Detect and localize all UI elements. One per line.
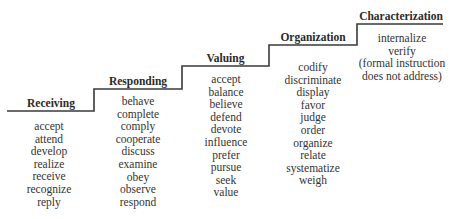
- level-title-responding: Responding: [94, 75, 182, 87]
- level-title-receiving: Receiving: [8, 97, 94, 109]
- verb-item: recognize: [8, 183, 90, 196]
- verb-item: discuss: [96, 145, 180, 158]
- verb-item: respond: [96, 196, 180, 209]
- verb-item: cooperate: [96, 133, 180, 146]
- verb-item: attend: [8, 133, 90, 146]
- level-title-valuing: Valuing: [182, 52, 269, 64]
- verb-list-characterization: internalize verify (formal instruction d…: [354, 32, 450, 82]
- verb-list-receiving: accept attend develop realize receive re…: [8, 120, 90, 208]
- verb-item: balance: [184, 86, 268, 99]
- verb-item: believe: [184, 98, 268, 111]
- verb-item: devote: [184, 123, 268, 136]
- verb-item: develop: [8, 145, 90, 158]
- verb-item: accept: [8, 120, 90, 133]
- verb-item: obey: [96, 171, 180, 184]
- affective-domain-staircase: Receiving accept attend develop realize …: [0, 0, 454, 219]
- verb-item: codify: [270, 61, 356, 74]
- verb-item: seek: [184, 174, 268, 187]
- verb-item: internalize: [354, 32, 450, 45]
- verb-item: comply: [96, 120, 180, 133]
- verb-item: discriminate: [270, 74, 356, 87]
- verb-item: order: [270, 124, 356, 137]
- verb-list-responding: behave complete comply cooperate discuss…: [96, 95, 180, 208]
- verb-item: (formal instruction: [354, 57, 450, 70]
- verb-item: behave: [96, 95, 180, 108]
- verb-item: reply: [8, 196, 90, 209]
- verb-item: examine: [96, 158, 180, 171]
- verb-list-valuing: accept balance believe defend devote inf…: [184, 73, 268, 199]
- verb-item: pursue: [184, 161, 268, 174]
- verb-item: relate: [270, 149, 356, 162]
- verb-item: realize: [8, 158, 90, 171]
- verb-item: favor: [270, 99, 356, 112]
- verb-item: does not address): [354, 70, 450, 83]
- verb-item: accept: [184, 73, 268, 86]
- verb-item: systematize: [270, 162, 356, 175]
- verb-item: receive: [8, 170, 90, 183]
- level-title-characterization: Characterization: [357, 10, 445, 22]
- verb-item: organize: [270, 137, 356, 150]
- level-title-organization: Organization: [269, 31, 357, 43]
- verb-item: judge: [270, 111, 356, 124]
- verb-item: influence: [184, 136, 268, 149]
- verb-item: defend: [184, 111, 268, 124]
- verb-list-organization: codify discriminate display favor judge …: [270, 61, 356, 187]
- verb-item: display: [270, 86, 356, 99]
- verb-item: weigh: [270, 174, 356, 187]
- verb-item: observe: [96, 183, 180, 196]
- verb-item: prefer: [184, 149, 268, 162]
- verb-item: complete: [96, 108, 180, 121]
- verb-item: value: [184, 186, 268, 199]
- verb-item: verify: [354, 45, 450, 58]
